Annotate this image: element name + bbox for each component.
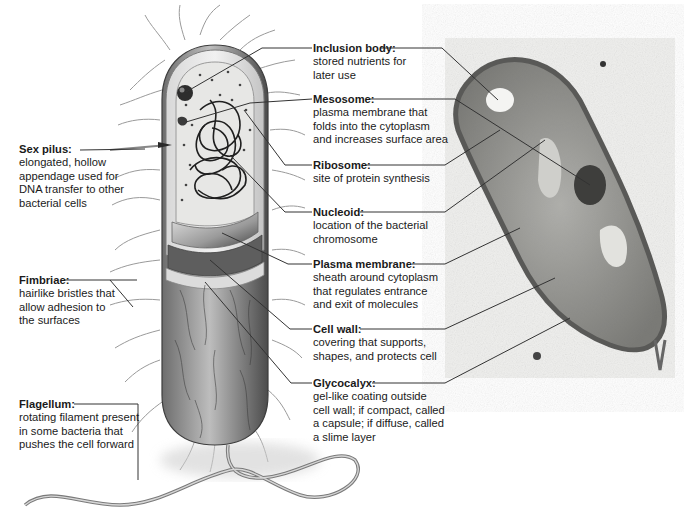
cell-wall-desc: covering that supports, shapes, and prot… bbox=[313, 336, 437, 363]
ribosome-desc: site of protein synthesis bbox=[313, 172, 430, 185]
label-ribosome: Ribosome: site of protein synthesis bbox=[313, 159, 430, 186]
sex-pilus-desc: elongated, hollow appendage used for DNA… bbox=[19, 156, 124, 210]
nucleoid-title: Nucleoid: bbox=[313, 206, 428, 219]
nucleoid-desc: location of the bacterial chromosome bbox=[313, 219, 428, 246]
label-nucleoid: Nucleoid: location of the bacterial chro… bbox=[313, 206, 428, 246]
cell-wall-title: Cell wall: bbox=[313, 323, 437, 336]
label-plasma-membrane: Plasma membrane: sheath around cytoplasm… bbox=[313, 258, 438, 312]
label-flagellum: Flagellum: rotating filament present in … bbox=[19, 398, 139, 452]
electron-micrograph bbox=[445, 38, 675, 378]
mesosome-desc: plasma membrane that folds into the cyto… bbox=[313, 106, 448, 146]
label-glycocalyx: Glycocalyx: gel-like coating outside cel… bbox=[313, 377, 445, 444]
fimbriae-desc: hairlike bristles that allow adhesion to… bbox=[19, 287, 115, 327]
label-mesosome: Mesosome: plasma membrane that folds int… bbox=[313, 93, 448, 147]
fimbriae-title: Fimbriae: bbox=[19, 274, 115, 287]
glycocalyx-desc: gel-like coating outside cell wall; if c… bbox=[313, 390, 445, 444]
flagellum-desc: rotating filament present in some bacter… bbox=[19, 411, 139, 451]
inclusion-body-desc: stored nutrients for later use bbox=[313, 55, 406, 82]
plasma-membrane-title: Plasma membrane: bbox=[313, 258, 438, 271]
ribosome-title: Ribosome: bbox=[313, 159, 430, 172]
inclusion-body-title: Inclusion body: bbox=[313, 42, 406, 55]
label-sex-pilus: Sex pilus: elongated, hollow appendage u… bbox=[19, 143, 124, 210]
mesosome-title: Mesosome: bbox=[313, 93, 448, 106]
glycocalyx-title: Glycocalyx: bbox=[313, 377, 445, 390]
sex-pilus-title: Sex pilus: bbox=[19, 143, 124, 156]
flagellum-title: Flagellum: bbox=[19, 398, 139, 411]
plasma-membrane-desc: sheath around cytoplasm that regulates e… bbox=[313, 271, 438, 311]
label-inclusion-body: Inclusion body: stored nutrients for lat… bbox=[313, 42, 406, 82]
label-fimbriae: Fimbriae: hairlike bristles that allow a… bbox=[19, 274, 115, 328]
label-cell-wall: Cell wall: covering that supports, shape… bbox=[313, 323, 437, 363]
